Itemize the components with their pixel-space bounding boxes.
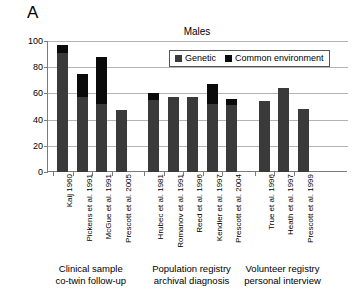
x-axis-category-labels: Kaij 1960Pickens et al. 1991McGue et al.…	[47, 174, 347, 258]
bar	[116, 110, 127, 172]
legend-label-common-environment: Common environment	[235, 53, 324, 63]
y-tick-label: 20	[3, 141, 43, 151]
bar	[96, 57, 107, 172]
group-captions: Clinical sampleco-twin follow-upPopulati…	[40, 263, 358, 293]
bar-segment-common-environment	[77, 74, 88, 98]
x-category-label: Kendler et al. 1997	[215, 174, 224, 241]
y-tick-label: 0	[3, 167, 43, 177]
bar	[148, 93, 159, 172]
bar-segment-common-environment	[207, 84, 218, 104]
group-caption-line1: Volunteer registry	[228, 263, 338, 275]
bar-segment-genetic	[259, 101, 270, 172]
legend-swatch-common-environment	[225, 55, 232, 62]
y-tick-label: 40	[3, 115, 43, 125]
bar	[226, 99, 237, 172]
bar	[298, 109, 309, 172]
group-caption-line2: co-twin follow-up	[36, 275, 146, 287]
bar	[278, 88, 289, 172]
bar-segment-genetic	[116, 110, 127, 172]
x-category-label: Romanov et al. 1991	[176, 174, 185, 248]
x-category-label: Heath et al. 1997	[286, 174, 295, 235]
group-caption-line1: Clinical sample	[36, 263, 146, 275]
bar-segment-common-environment	[226, 99, 237, 106]
bar-segment-common-environment	[148, 93, 159, 100]
x-category-label: Reed et al. 1996	[195, 174, 204, 233]
bar	[57, 45, 68, 172]
chart-title: Males	[47, 26, 347, 37]
bar-segment-common-environment	[57, 45, 68, 53]
x-category-label: True et al. 1996	[267, 174, 276, 230]
y-tick-label: 60	[3, 88, 43, 98]
bar	[259, 101, 270, 172]
y-tick-mark	[44, 172, 48, 173]
x-category-label: Prescott et al. 2005	[124, 174, 133, 243]
figure-panel: A Males % Variance 020406080100 Genetic …	[0, 0, 358, 305]
bar-segment-genetic	[168, 97, 179, 172]
panel-label: A	[27, 3, 39, 23]
bar	[207, 84, 218, 172]
bar-segment-genetic	[187, 97, 198, 172]
legend-item-common-environment: Common environment	[225, 53, 324, 63]
bar-segment-genetic	[226, 105, 237, 172]
y-axis-tick-labels: 020406080100	[0, 41, 43, 172]
group-caption-line2: personal interview	[228, 275, 338, 287]
x-category-label: Hrubec et al. 1981	[156, 174, 165, 239]
bar-segment-genetic	[57, 53, 68, 172]
x-category-label: McGue et al. 1991	[104, 174, 113, 239]
x-category-label: Prescott et al. 1999	[306, 174, 315, 243]
bar-segment-common-environment	[96, 57, 107, 104]
x-category-label: Prescott et al. 2004	[234, 174, 243, 243]
group-caption: Clinical sampleco-twin follow-up	[36, 263, 146, 287]
legend-label-genetic: Genetic	[185, 53, 216, 63]
x-category-label: Pickens et al. 1991	[85, 174, 94, 242]
chart-legend: Genetic Common environment	[169, 50, 330, 67]
bar-segment-genetic	[96, 104, 107, 172]
group-caption: Volunteer registrypersonal interview	[228, 263, 338, 287]
bar	[168, 97, 179, 172]
bar-segment-genetic	[148, 100, 159, 172]
y-tick-label: 100	[3, 36, 43, 46]
bar-segment-genetic	[298, 109, 309, 172]
bar-segment-genetic	[207, 104, 218, 172]
bar-segment-genetic	[278, 88, 289, 172]
x-category-label: Kaij 1960	[65, 174, 74, 207]
bar-segment-genetic	[77, 97, 88, 172]
bar	[77, 74, 88, 172]
legend-item-genetic: Genetic	[175, 53, 216, 63]
legend-swatch-genetic	[175, 55, 182, 62]
bar	[187, 97, 198, 172]
y-tick-label: 80	[3, 62, 43, 72]
